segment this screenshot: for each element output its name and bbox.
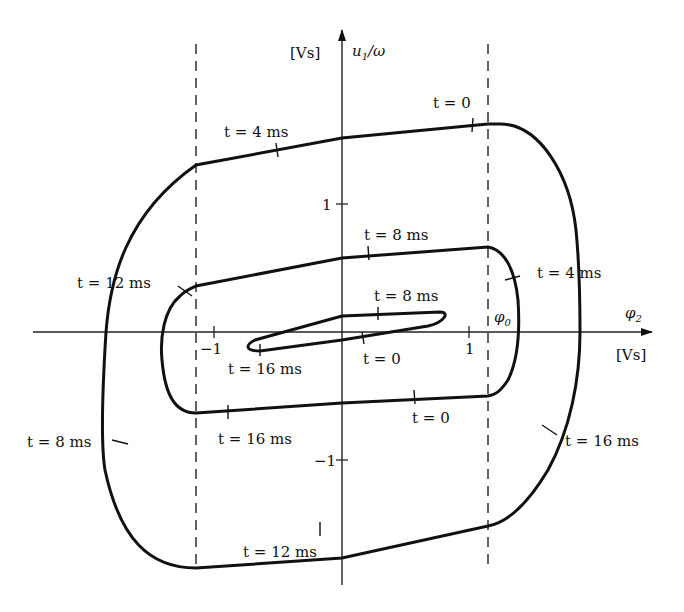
x-axis-label: φ2 <box>625 304 642 324</box>
outer-label-t8: t = 8 ms <box>27 433 91 451</box>
middle-label-t4: t = 4 ms <box>537 264 601 282</box>
outer-label-t0: t = 0 <box>433 94 471 112</box>
tick-label-y-pos1: 1 <box>322 196 332 214</box>
middle-label-t0: t = 0 <box>412 409 450 427</box>
phi0-label: φ0 <box>494 308 512 328</box>
time-ticks <box>112 118 557 536</box>
tick-label-x-neg1: −1 <box>200 340 222 358</box>
inner-label-t8: t = 8 ms <box>374 287 438 305</box>
x-unit-label: [Vs] <box>616 346 646 364</box>
middle-label-t16: t = 16 ms <box>218 430 292 448</box>
middle-loop <box>161 247 518 413</box>
outer-label-t4: t = 4 ms <box>224 123 288 141</box>
outer-label-t16: t = 16 ms <box>565 432 639 450</box>
y-axis-label: u1/ω <box>352 42 385 62</box>
outer-label-t12: t = 12 ms <box>243 543 317 561</box>
tick-label-x-pos1: 1 <box>465 340 475 358</box>
inner-label-t16: t = 16 ms <box>228 360 302 378</box>
middle-label-t12: t = 12 ms <box>77 274 151 292</box>
inner-label-t0: t = 0 <box>363 350 401 368</box>
outer-loop <box>102 124 580 568</box>
phase-diagram: [Vs] u1/ω φ2 [Vs] φ0 −1 1 1 −1 t = 0 t =… <box>0 0 684 612</box>
middle-label-t8: t = 8 ms <box>364 226 428 244</box>
tick-label-y-neg1: −1 <box>314 452 336 470</box>
y-unit-label: [Vs] <box>290 44 320 62</box>
